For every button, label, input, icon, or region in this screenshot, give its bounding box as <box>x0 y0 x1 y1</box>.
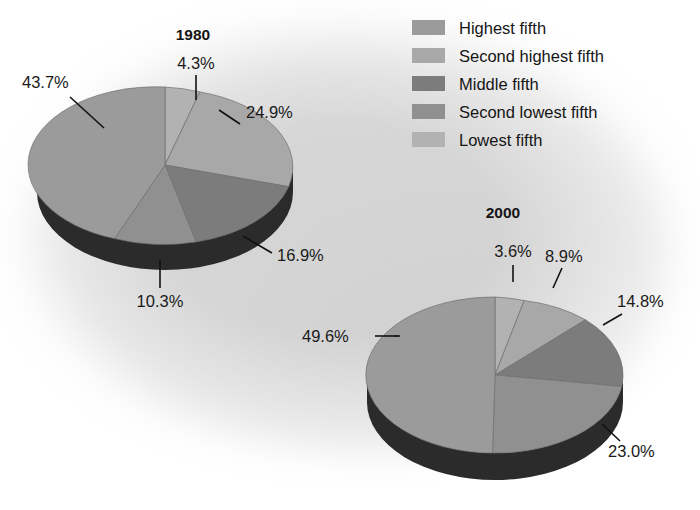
pie-1980-label-second-lowest-fifth: 10.3% <box>137 292 184 310</box>
pie-2000-slices <box>366 297 623 453</box>
legend-label-middle-fifth: Middle fifth <box>459 75 539 93</box>
pie-2000-label-second-lowest-fifth: 23.0% <box>608 442 655 460</box>
legend-swatch-highest-fifth <box>412 20 445 35</box>
legend-label-lowest-fifth: Lowest fifth <box>459 131 542 149</box>
legend-item: Middle fifth <box>412 75 539 93</box>
pie-2000-label-lowest-fifth: 3.6% <box>494 242 532 260</box>
pie-2000-label-highest-fifth: 49.6% <box>302 327 349 345</box>
pie-chart-1980: 1980 43.7% 4.3% 24.9% 16.9% 10.3% <box>22 26 324 310</box>
chart-figure: 1980 43.7% 4.3% 24.9% 16.9% 10.3% <box>0 0 700 510</box>
legend-item: Lowest fifth <box>412 131 542 149</box>
pie-2000-label-middle-fifth: 14.8% <box>617 292 664 310</box>
pie-1980-label-middle-fifth: 16.9% <box>277 246 324 264</box>
legend-item: Highest fifth <box>412 19 546 37</box>
legend-label-second-highest-fifth: Second highest fifth <box>459 47 604 65</box>
pie-1980-label-lowest-fifth: 4.3% <box>177 54 215 72</box>
legend: Highest fifth Second highest fifth Middl… <box>412 19 604 149</box>
pie-2000-title: 2000 <box>486 204 520 221</box>
legend-swatch-second-lowest-fifth <box>412 104 445 119</box>
legend-swatch-lowest-fifth <box>412 132 445 147</box>
legend-item: Second lowest fifth <box>412 103 598 121</box>
legend-swatch-second-highest-fifth <box>412 48 445 63</box>
pie-1980-title: 1980 <box>176 26 210 43</box>
pie-1980-label-highest-fifth: 43.7% <box>22 73 69 91</box>
pie-chart-2000: 2000 49.6% 3.6% 8.9% 14.8% 23.0% <box>302 204 664 480</box>
legend-item: Second highest fifth <box>412 47 604 65</box>
legend-swatch-middle-fifth <box>412 76 445 91</box>
legend-label-highest-fifth: Highest fifth <box>459 19 546 37</box>
pie-2000-label-second-highest-fifth: 8.9% <box>545 247 583 265</box>
pie-1980-label-second-highest-fifth: 24.9% <box>246 103 293 121</box>
pie-2000-leader-middle-fifth <box>603 314 622 325</box>
pie-charts-svg: 1980 43.7% 4.3% 24.9% 16.9% 10.3% <box>0 0 700 510</box>
pie-2000-leader-second-highest-fifth <box>553 268 562 288</box>
legend-label-second-lowest-fifth: Second lowest fifth <box>459 103 598 121</box>
